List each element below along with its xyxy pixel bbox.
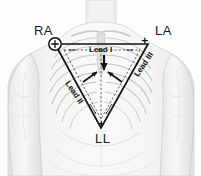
electrode-label-ll: LL: [95, 132, 110, 145]
electrode-label-la: LA: [155, 24, 172, 37]
la-electrode-marker[interactable]: [142, 38, 147, 43]
einthoven-triangle-diagram: RA LA LL Lead I Lead II Lead III: [0, 0, 201, 176]
lead-2-vector-arrow: [83, 72, 97, 82]
lead-3-vector-arrow: [108, 72, 122, 82]
electrode-label-ra: RA: [34, 24, 53, 37]
lead-label-1: Lead I: [89, 46, 112, 54]
inner-dashed-triangle: [64, 50, 140, 119]
ra-electrode-marker[interactable]: [49, 38, 61, 50]
